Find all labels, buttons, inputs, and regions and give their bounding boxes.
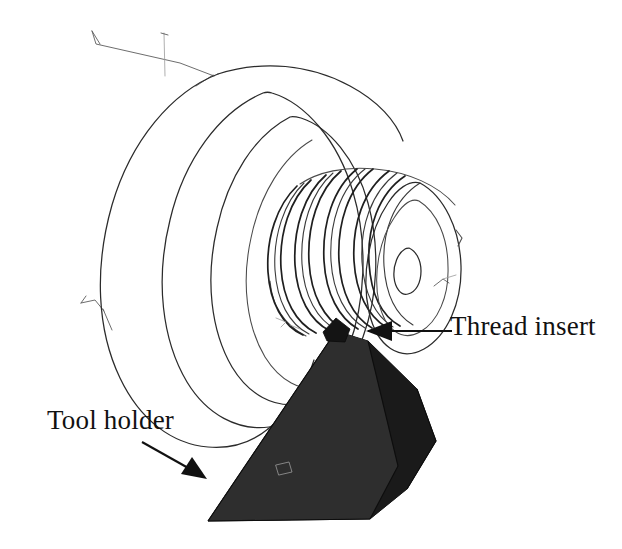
thread-insert-label: Thread insert <box>450 311 596 341</box>
thread-turn-1 <box>268 186 303 335</box>
thread-turn-2 <box>281 180 316 333</box>
tool-holder-top-facet <box>208 331 398 521</box>
tool-holder-arrow-head <box>181 457 207 479</box>
thread-turn-8 <box>369 176 405 326</box>
tool-holder-arrow-shaft <box>142 442 190 469</box>
chuck-outer-top-profile <box>218 66 403 141</box>
tool-holder-label: Tool holder <box>47 405 174 435</box>
figure-illustration <box>0 0 622 549</box>
center-bore <box>394 248 421 294</box>
chuck-outer-left-profile <box>100 74 268 447</box>
figure-root: Thread insert Tool holder <box>0 0 622 549</box>
thread-turn-3 <box>295 175 330 331</box>
leader-tick-b <box>161 33 168 35</box>
face-annotation-tail <box>443 275 456 279</box>
thread-envelope-top <box>300 168 455 205</box>
leader-tick-a <box>92 31 100 44</box>
threaded-section <box>268 168 455 336</box>
thread-insert-tip <box>323 318 350 342</box>
leader-line-top-a <box>92 31 214 76</box>
thread-insert-arrow-head <box>366 321 392 341</box>
thread-turn-9 <box>384 183 420 325</box>
tool-holder-callout <box>142 442 207 479</box>
thread-envelope-bottom <box>270 281 306 336</box>
leader-line-top-b <box>164 33 165 76</box>
thread-insert-callout <box>366 321 452 341</box>
thread-valley-2 <box>302 173 337 330</box>
step-shoulder-arc <box>246 140 322 389</box>
thread-insert <box>323 318 350 342</box>
